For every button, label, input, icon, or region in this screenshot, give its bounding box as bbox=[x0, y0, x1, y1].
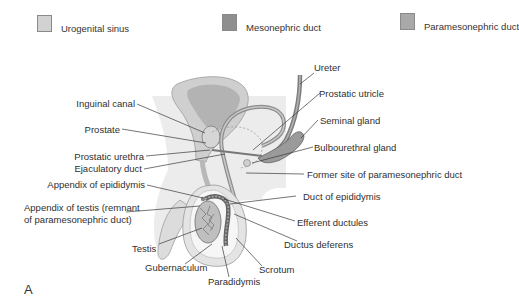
label-appendix-of-testis-line1: Appendix of testis (remnant bbox=[24, 202, 140, 213]
label-inguinal-canal: Inguinal canal bbox=[50, 98, 135, 109]
label-ureter: Ureter bbox=[314, 62, 340, 73]
label-paradidymis: Paradidymis bbox=[208, 276, 260, 287]
label-former-site-paramesonephric: Former site of paramesonephric duct bbox=[307, 169, 462, 180]
label-testis: Testis bbox=[132, 243, 156, 254]
label-efferent-ductules: Efferent ductules bbox=[297, 217, 368, 228]
label-bulbourethral-gland: Bulbourethral gland bbox=[314, 142, 396, 153]
label-gubernaculum: Gubernaculum bbox=[145, 262, 207, 273]
label-scrotum: Scrotum bbox=[259, 264, 294, 275]
label-seminal-gland: Seminal gland bbox=[320, 115, 380, 126]
testis bbox=[195, 201, 221, 243]
prostate bbox=[202, 126, 220, 148]
bulbourethral-gland bbox=[244, 160, 251, 167]
label-ductus-deferens: Ductus deferens bbox=[284, 239, 353, 250]
label-appendix-of-epididymis: Appendix of epididymis bbox=[20, 179, 145, 190]
label-appendix-of-testis-line2: of paramesonephric duct) bbox=[24, 214, 132, 225]
label-prostate: Prostate bbox=[50, 124, 120, 135]
label-prostatic-utricle: Prostatic utricle bbox=[319, 88, 384, 99]
label-ejaculatory-duct: Ejaculatory duct bbox=[40, 163, 142, 174]
label-duct-of-epididymis: Duct of epididymis bbox=[303, 191, 381, 202]
label-prostatic-urethra: Prostatic urethra bbox=[40, 151, 144, 162]
panel-letter: A bbox=[24, 282, 33, 297]
